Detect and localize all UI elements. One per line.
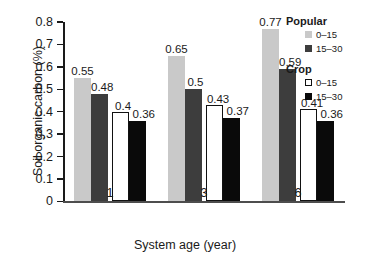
x-tick-label: 3 xyxy=(201,186,208,200)
bar[interactable]: 0.55 xyxy=(74,78,91,201)
y-tick: 0.3 xyxy=(57,133,63,134)
y-tick-label: 0 xyxy=(46,194,53,208)
legend-item[interactable]: 15–30 xyxy=(305,43,369,54)
legend-swatch-icon xyxy=(305,79,312,86)
bar[interactable]: 0.4 xyxy=(112,112,129,202)
bar-value-label: 0.36 xyxy=(321,108,343,120)
y-tick-label: 0.2 xyxy=(36,150,53,164)
bar[interactable]: 0.77 xyxy=(262,29,279,202)
bar-value-label: 0.37 xyxy=(227,105,249,117)
bar[interactable]: 0.65 xyxy=(168,56,185,202)
bar[interactable]: 0.41 xyxy=(300,109,317,201)
bar[interactable]: 0.36 xyxy=(317,121,334,202)
bar-value-label: 0.4 xyxy=(115,100,131,112)
bar-group: 0.550.480.40.36 xyxy=(74,22,146,201)
bar[interactable]: 0.5 xyxy=(185,89,202,201)
y-tick: 0.1 xyxy=(57,178,63,179)
bar[interactable]: 0.48 xyxy=(91,94,108,202)
legend-item-label: 15–30 xyxy=(316,43,342,54)
bar-value-label: 0.36 xyxy=(133,108,155,120)
bar-value-label: 0.65 xyxy=(165,43,187,55)
y-tick-label: 0.7 xyxy=(36,37,53,51)
x-tick-label: 6 xyxy=(295,186,302,200)
bar-value-label: 0.5 xyxy=(187,76,203,88)
y-tick-label: 0.3 xyxy=(36,127,53,141)
y-tick: 0.7 xyxy=(57,44,63,45)
legend-swatch-icon xyxy=(305,93,312,100)
x-tick-label: 1 xyxy=(107,186,114,200)
bar-value-label: 0.77 xyxy=(259,16,281,28)
legend-item-label: 0–15 xyxy=(316,29,337,40)
y-tick: 0.2 xyxy=(57,156,63,157)
y-tick: 0.5 xyxy=(57,89,63,90)
bar-value-label: 0.48 xyxy=(91,81,113,93)
legend-item[interactable]: 0–15 xyxy=(305,77,369,88)
y-tick-label: 0.6 xyxy=(36,60,53,74)
legend-item[interactable]: 0–15 xyxy=(305,29,369,40)
legend-group-title: Popular xyxy=(286,15,369,27)
y-tick: 0.4 xyxy=(57,111,63,112)
y-tick-label: 0.1 xyxy=(36,172,53,186)
y-tick-label: 0.5 xyxy=(36,82,53,96)
legend-item[interactable]: 15–30 xyxy=(305,91,369,102)
x-axis-title: System age (year) xyxy=(0,238,370,252)
y-tick-label: 0.8 xyxy=(36,15,53,29)
legend: Popular0–1515–30Crop0–1515–30 xyxy=(283,15,369,105)
bar[interactable]: 0.43 xyxy=(206,105,223,201)
bar[interactable]: 0.37 xyxy=(223,118,240,201)
y-tick: 0.8 xyxy=(57,21,63,22)
legend-item-label: 0–15 xyxy=(316,77,337,88)
bar[interactable]: 0.36 xyxy=(129,121,146,202)
bar-value-label: 0.55 xyxy=(71,65,93,77)
bar-group: 0.650.50.430.37 xyxy=(168,22,240,201)
y-tick-label: 0.4 xyxy=(36,105,53,119)
legend-swatch-icon xyxy=(305,45,312,52)
bar-value-label: 0.43 xyxy=(207,93,229,105)
chart-figure: Soil organic carbon (%) 00.10.20.30.40.5… xyxy=(0,0,370,270)
y-tick: 0.6 xyxy=(57,66,63,67)
legend-group-title: Crop xyxy=(286,63,369,75)
y-tick: 0 xyxy=(57,201,63,202)
legend-item-label: 15–30 xyxy=(316,91,342,102)
legend-swatch-icon xyxy=(305,31,312,38)
